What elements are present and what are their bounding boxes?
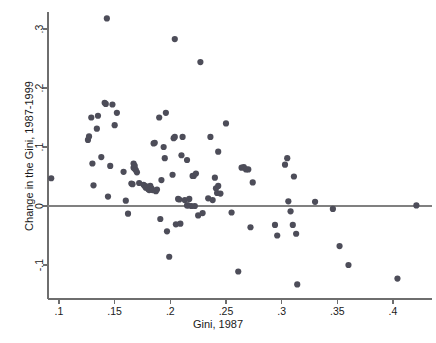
data-point bbox=[394, 275, 400, 281]
x-tick-label: .4 bbox=[389, 305, 398, 317]
data-point bbox=[284, 155, 290, 161]
data-point bbox=[152, 140, 158, 146]
data-point bbox=[290, 222, 296, 228]
data-point bbox=[177, 221, 183, 227]
plot-canvas: .1.15.2.25.3.35.4-.10.1.2.3 bbox=[0, 0, 436, 343]
data-point bbox=[197, 59, 203, 65]
data-point bbox=[186, 196, 192, 202]
data-point bbox=[215, 149, 221, 155]
tick-labels-group: .1.15.2.25.3.35.4-.10.1.2.3 bbox=[33, 24, 398, 317]
data-point bbox=[184, 157, 190, 163]
data-point bbox=[200, 210, 206, 216]
data-point bbox=[129, 181, 135, 187]
data-point bbox=[48, 175, 54, 181]
data-point bbox=[161, 144, 167, 150]
x-tick-label: .25 bbox=[219, 305, 234, 317]
data-point bbox=[123, 198, 129, 204]
data-point bbox=[228, 209, 234, 215]
data-point bbox=[274, 232, 280, 238]
data-point bbox=[134, 169, 140, 175]
data-point bbox=[162, 155, 168, 161]
data-point bbox=[210, 197, 216, 203]
data-point bbox=[184, 202, 190, 208]
data-point bbox=[164, 228, 170, 234]
data-point bbox=[158, 177, 164, 183]
data-point bbox=[223, 120, 229, 126]
data-point bbox=[104, 15, 110, 21]
data-point bbox=[282, 162, 288, 168]
data-point bbox=[272, 222, 278, 228]
data-point bbox=[287, 208, 293, 214]
data-point bbox=[163, 110, 169, 116]
data-point bbox=[193, 170, 199, 176]
data-point bbox=[98, 154, 104, 160]
data-point bbox=[109, 101, 115, 107]
data-point bbox=[154, 186, 160, 192]
x-tick-label: .1 bbox=[55, 305, 64, 317]
data-point bbox=[217, 191, 223, 197]
data-point bbox=[207, 134, 213, 140]
data-point bbox=[95, 113, 101, 119]
data-point bbox=[312, 199, 318, 205]
data-point bbox=[235, 268, 241, 274]
data-point bbox=[345, 262, 351, 268]
data-point bbox=[89, 160, 95, 166]
data-point bbox=[245, 166, 251, 172]
data-point bbox=[250, 179, 256, 185]
data-point bbox=[105, 193, 111, 199]
x-axis-title: Gini, 1987 bbox=[0, 318, 436, 330]
data-point bbox=[107, 163, 113, 169]
data-point bbox=[192, 203, 198, 209]
data-point bbox=[285, 198, 291, 204]
data-point bbox=[157, 216, 163, 222]
x-tick-label: .3 bbox=[277, 305, 286, 317]
y-tick-label: .3 bbox=[33, 24, 45, 33]
data-point bbox=[166, 254, 172, 260]
y-axis-title: Change in the Gini, 1987-1999 bbox=[23, 41, 35, 271]
scatter-plot-figure: .1.15.2.25.3.35.4-.10.1.2.3 Gini, 1987 C… bbox=[0, 0, 436, 343]
data-point bbox=[86, 133, 92, 139]
data-point bbox=[88, 114, 94, 120]
data-point bbox=[172, 36, 178, 42]
x-tick-label: .2 bbox=[166, 305, 175, 317]
data-point bbox=[413, 202, 419, 208]
data-point bbox=[179, 134, 185, 140]
data-point bbox=[172, 134, 178, 140]
x-tick-label: .15 bbox=[107, 305, 122, 317]
data-point bbox=[178, 152, 184, 158]
data-point bbox=[293, 231, 299, 237]
data-point bbox=[291, 173, 297, 179]
data-point bbox=[125, 211, 131, 217]
data-point bbox=[176, 196, 182, 202]
data-point bbox=[94, 126, 100, 132]
data-point bbox=[294, 281, 300, 287]
data-point bbox=[330, 206, 336, 212]
data-point bbox=[103, 101, 109, 107]
data-point bbox=[114, 110, 120, 116]
data-point bbox=[120, 169, 126, 175]
data-point bbox=[112, 122, 118, 128]
data-point bbox=[169, 172, 175, 178]
data-point bbox=[212, 175, 218, 181]
x-tick-label: .35 bbox=[330, 305, 345, 317]
data-point bbox=[215, 183, 221, 189]
data-points-group bbox=[48, 15, 419, 287]
data-point bbox=[336, 243, 342, 249]
data-point bbox=[247, 224, 253, 230]
data-point bbox=[156, 114, 162, 120]
data-point bbox=[90, 182, 96, 188]
